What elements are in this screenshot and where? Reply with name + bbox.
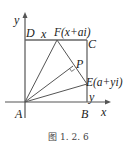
- x-axis-arrow-icon: [105, 100, 111, 105]
- figure: y D x F(x+ai) C P E(a+yi) y A B x 图 1. 2…: [0, 0, 137, 148]
- y-axis-arrow-icon: [23, 12, 28, 18]
- right-angle-mark-icon: [70, 69, 75, 72]
- point-D-label: D: [26, 27, 35, 39]
- point-F-label: F(x+ai): [54, 27, 91, 39]
- point-A-label: A: [15, 108, 22, 120]
- point-P-label: P: [76, 58, 83, 70]
- segment-DF-label: x: [41, 28, 46, 40]
- x-axis-label: x: [101, 106, 106, 118]
- segment-AP: [25, 66, 73, 102]
- y-axis-label: y: [14, 14, 19, 26]
- segment-AF: [25, 40, 57, 102]
- point-B-label: B: [81, 108, 88, 120]
- point-C-label: C: [88, 38, 96, 50]
- figure-caption: 图 1. 2. 6: [0, 130, 137, 143]
- segment-BE-label: y: [89, 91, 94, 103]
- geometry-diagram: [0, 0, 137, 148]
- segment-AE: [25, 84, 87, 102]
- point-E-label: E(a+yi): [86, 77, 123, 89]
